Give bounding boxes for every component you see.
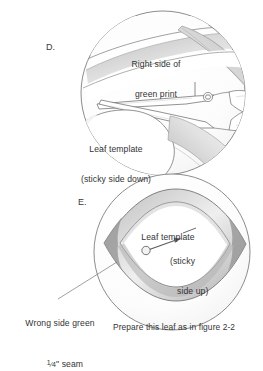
label-line: side up) [170, 287, 230, 297]
label-wrong-side-green-seam: Wrong side green 1⁄4" seam [6, 299, 114, 371]
label-line: Right side of [108, 60, 204, 70]
label-sticky-side-up: (sticky side up) [170, 237, 230, 307]
panel-letter-e: E. [78, 197, 87, 207]
label-line: (sticky side down) [56, 175, 176, 185]
panel-letter-d: D. [46, 42, 55, 52]
label-leaf-template-sticky-down: Leaf template (sticky side down) [56, 125, 176, 195]
label-line: (sticky [170, 257, 230, 267]
label-right-side-green-print: Right side of green print [108, 40, 204, 110]
figure-caption: Prepare this leaf as in figure 2-2 [113, 323, 263, 333]
label-line-seam: 1⁄4" seam [6, 349, 114, 371]
seam-suffix: " seam [56, 359, 83, 369]
label-line: Leaf template [56, 145, 176, 155]
label-line: Wrong side green [6, 319, 114, 329]
label-line: green print [108, 90, 204, 100]
scissors-pivot-screw [203, 92, 212, 101]
